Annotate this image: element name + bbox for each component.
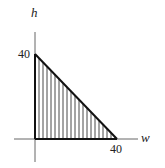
h-axis-label: h (31, 5, 38, 20)
triangle-region-diagram: h w 40 40 (0, 0, 165, 168)
w-axis-label: w (141, 130, 150, 145)
w-intercept-label: 40 (110, 142, 122, 156)
h-intercept-label: 40 (18, 47, 30, 61)
